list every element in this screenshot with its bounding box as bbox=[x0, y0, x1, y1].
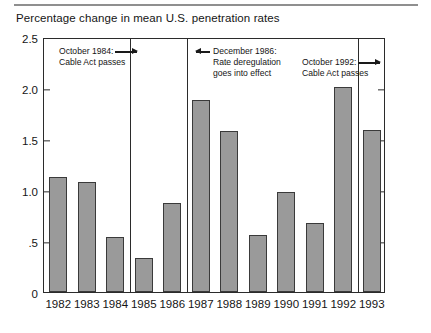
y-axis-tick-label: 2.0 bbox=[22, 84, 38, 96]
x-axis-tick-label-1985: 1985 bbox=[131, 298, 157, 310]
x-axis-tick-label-1986: 1986 bbox=[159, 298, 185, 310]
bar-1986 bbox=[163, 203, 181, 292]
y-axis-tick-label: 2.5 bbox=[22, 33, 38, 45]
bar-1988 bbox=[220, 131, 238, 292]
annotation-oct-1984: October 1984: Cable Act passes bbox=[59, 46, 137, 68]
x-axis-tick-label-1984: 1984 bbox=[102, 298, 128, 310]
header-divider bbox=[14, 4, 418, 6]
y-axis-tick-label: .5 bbox=[28, 237, 38, 249]
x-axis-tick-label-1991: 1991 bbox=[302, 298, 328, 310]
bar-1989 bbox=[249, 235, 267, 292]
arrow-left-icon bbox=[196, 48, 210, 55]
x-axis-tick-label-1982: 1982 bbox=[45, 298, 71, 310]
x-axis-tick-label-1992: 1992 bbox=[330, 298, 356, 310]
x-axis-tick-label-1988: 1988 bbox=[216, 298, 242, 310]
annotation-oct-1992-line-2: Cable Act passes bbox=[302, 68, 380, 79]
x-axis-tick-label-1987: 1987 bbox=[188, 298, 214, 310]
event-separator-line-1 bbox=[130, 39, 131, 292]
y-axis-tick-label: 1.0 bbox=[22, 186, 38, 198]
annotation-dec-1986-line-3: goes into effect bbox=[196, 68, 281, 79]
x-axis-tick-label-1990: 1990 bbox=[273, 298, 299, 310]
y-axis-tick-label: 0 bbox=[32, 288, 38, 300]
chart-title: Percentage change in mean U.S. penetrati… bbox=[16, 12, 280, 24]
bar-1987 bbox=[192, 100, 210, 292]
annotation-dec-1986: December 1986: Rate deregulation goes in… bbox=[196, 46, 281, 79]
annotation-oct-1984-line-1: October 1984: bbox=[59, 46, 137, 57]
bar-1984 bbox=[106, 237, 124, 292]
x-axis-tick-label-1993: 1993 bbox=[359, 298, 385, 310]
annotation-oct-1992-line-1: October 1992: bbox=[302, 57, 380, 68]
y-axis-tick-mark-right bbox=[378, 89, 384, 90]
bar-1992 bbox=[334, 87, 352, 292]
bar-1985 bbox=[135, 258, 153, 292]
x-axis-tick-label-1989: 1989 bbox=[245, 298, 271, 310]
bar-1993 bbox=[363, 130, 381, 292]
bar-1991 bbox=[306, 223, 324, 292]
bar-1990 bbox=[277, 192, 295, 292]
annotation-dec-1986-line-2: Rate deregulation bbox=[196, 57, 281, 68]
annotation-oct-1992: October 1992: Cable Act passes bbox=[302, 57, 380, 79]
annotation-dec-1986-line-1: December 1986: bbox=[196, 46, 281, 57]
arrow-right-icon bbox=[358, 59, 380, 66]
chart-figure: Percentage change in mean U.S. penetrati… bbox=[0, 0, 431, 333]
bar-1983 bbox=[78, 182, 96, 292]
annotation-oct-1984-line-2: Cable Act passes bbox=[59, 57, 137, 68]
x-axis-tick-label-1983: 1983 bbox=[74, 298, 100, 310]
bar-1982 bbox=[49, 177, 67, 292]
y-axis-tick-mark bbox=[44, 140, 50, 141]
y-axis-tick-label: 1.5 bbox=[22, 135, 38, 147]
event-separator-line-2 bbox=[187, 39, 188, 292]
arrow-right-icon bbox=[115, 48, 137, 55]
y-axis-tick-mark bbox=[44, 89, 50, 90]
